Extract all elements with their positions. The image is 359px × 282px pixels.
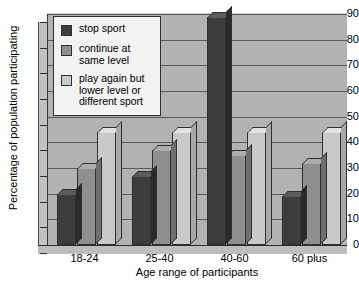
y-tick-mark [40,202,47,203]
y-tick-mark [40,176,47,177]
y-tick-label: 50 [315,111,359,122]
bar-side-face [266,121,272,244]
x-tick-label-60-plus: 60 plus [273,252,347,264]
y-tick-label: 90 [315,8,359,19]
bar-25-40-series-0 [132,176,151,245]
y-tick-mark [40,253,47,254]
x-tick-label-40-60: 40-60 [198,252,272,264]
legend-label-line-1: play again but [79,72,144,84]
bar-side-face [191,121,197,244]
legend-label-continue-same-level: continue at same level [79,43,130,66]
bar-side-face [321,152,327,244]
bar-front-face [208,18,225,244]
x-tick-label-18-24: 18-24 [48,252,122,264]
legend-label-stop-sport: stop sport [79,23,125,35]
bar-side-face [246,144,252,244]
legend: stop sport continue at same level play a… [53,16,161,116]
x-axis-title: Age range of participants [47,266,347,278]
bar-front-face [58,195,75,244]
bar-front-face [133,177,150,244]
y-tick-mark [40,150,47,151]
y-tick-label: 70 [315,59,359,70]
gridline [48,117,347,118]
gridline [48,142,347,143]
y-tick-label: 60 [315,85,359,96]
y-axis-title: Percentage of population participating [7,0,19,238]
y-tick-mark [40,99,47,100]
bar-chart: Percentage of population participating 0… [0,0,359,282]
bar-side-face [96,157,102,244]
bar-side-face [116,121,122,244]
bar-40-60-series-0 [207,17,226,245]
bar-side-face [151,165,157,244]
legend-item-stop-sport: stop sport [61,23,154,36]
bar-60-plus-series-0 [282,196,301,245]
bar-side-face [171,139,177,244]
bar-side-face [301,185,307,244]
y-tick-mark [40,22,47,23]
legend-label-line-3: different sport [79,95,143,107]
legend-label-line-2: same level [79,54,129,66]
bar-side-face [76,183,82,244]
legend-swatch-continue-same-level [61,45,72,56]
bar-side-face [226,6,232,244]
y-tick-mark [40,73,47,74]
legend-swatch-play-again-lower-level [61,75,72,86]
bar-side-face [341,121,347,244]
legend-label-play-again-lower-level: play again but lower level or different … [79,73,144,108]
bar-18-24-series-0 [57,194,76,245]
gridline [48,14,347,15]
y-tick-mark [40,125,47,126]
legend-label-line-1: continue at [79,42,130,54]
legend-item-continue-same-level: continue at same level [61,43,154,66]
x-tick-label-25-40: 25-40 [123,252,197,264]
legend-item-play-again-lower-level: play again but lower level or different … [61,73,154,108]
y-tick-mark [40,48,47,49]
y-tick-label: 80 [315,34,359,45]
legend-label-line-2: lower level or [79,84,141,96]
y-tick-mark [40,227,47,228]
bar-front-face [283,197,300,244]
legend-swatch-stop-sport [61,25,72,36]
